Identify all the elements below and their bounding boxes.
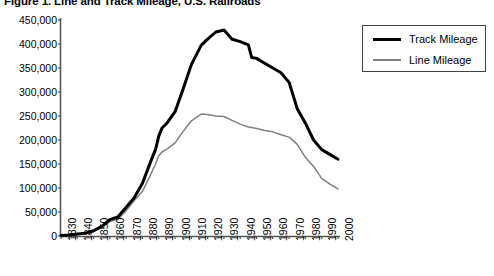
x-tick-label: 1850 — [98, 218, 110, 241]
legend-swatch-track-mileage — [373, 38, 401, 41]
x-tick-label: 1870 — [131, 218, 143, 241]
legend: Track Mileage Line Mileage — [362, 25, 486, 72]
legend-item-line-mileage: Line Mileage — [363, 50, 487, 70]
x-tick-label: 1940 — [245, 218, 257, 241]
x-tick-label: 1980 — [310, 218, 322, 241]
x-tick-label: 1880 — [147, 218, 159, 241]
legend-swatch-line-mileage — [373, 59, 401, 61]
x-tick-label: 1900 — [180, 218, 192, 241]
x-tick-label: 1960 — [277, 218, 289, 241]
legend-label-line-mileage: Line Mileage — [409, 54, 471, 66]
x-tick-label: 2000 — [343, 218, 355, 241]
chart-figure: Figure 1. Line and Track Mileage, U.S. R… — [0, 0, 494, 276]
x-tick-label: 1950 — [261, 218, 273, 241]
x-tick-label: 1990 — [326, 218, 338, 241]
x-tick-label: 1830 — [66, 218, 78, 241]
x-tick-label: 1920 — [212, 218, 224, 241]
x-tick-label: 1860 — [114, 218, 126, 241]
legend-label-track-mileage: Track Mileage — [409, 33, 478, 45]
x-tick-label: 1840 — [82, 218, 94, 241]
x-tick-label: 1910 — [196, 218, 208, 241]
x-tick-label: 1970 — [294, 218, 306, 241]
x-tick-label: 1890 — [163, 218, 175, 241]
x-tick-label: 1930 — [228, 218, 240, 241]
legend-item-track-mileage: Track Mileage — [363, 29, 487, 49]
